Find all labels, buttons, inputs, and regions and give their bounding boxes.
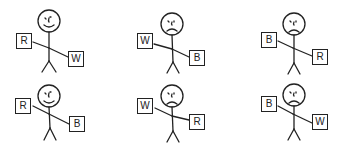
card-left: R <box>15 98 31 114</box>
stick-figure-2: W B <box>115 0 230 76</box>
stick-figure-5: W R <box>115 76 230 152</box>
card-left: B <box>261 96 277 112</box>
happy-stick-figure-icon <box>0 76 115 152</box>
sad-stick-figure-icon <box>115 0 230 76</box>
card-right: B <box>69 116 85 132</box>
card-right: W <box>312 114 328 130</box>
card-right: W <box>68 51 84 67</box>
card-left: W <box>137 33 153 49</box>
stick-figure-1: R W <box>0 0 115 76</box>
stick-figure-6: B W <box>230 76 345 152</box>
sad-stick-figure-icon <box>115 76 230 152</box>
stick-figure-4: R B <box>0 76 115 152</box>
card-left: W <box>137 98 153 114</box>
stick-figure-3: B R <box>230 0 345 76</box>
card-right: B <box>189 50 205 66</box>
card-left: B <box>261 32 277 48</box>
card-right: R <box>312 49 328 65</box>
card-left: R <box>16 33 32 49</box>
card-right: R <box>189 114 205 130</box>
